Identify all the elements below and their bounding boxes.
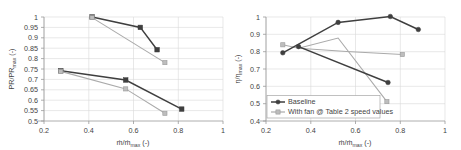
x-tick-label: 1 [221,126,225,135]
y-tick-label: 0.7 [250,65,260,74]
x-tick-label: 0.2 [39,126,49,135]
series-withfan-descending-markers [385,100,389,104]
two-panel-chart-figure: 1 0.95 0.9 0.85 0.8 0.75 0.7 0.65 0.6 0.… [0,0,461,150]
y-tick-label: 0.9 [250,30,260,39]
series-withfan-descending [299,38,387,102]
series-baseline-high-markers [90,15,160,52]
x-axis-title: ṁ/ṁmax (-) [117,138,150,148]
y-tick-label: 0.7 [28,75,38,84]
y-tick-label: 0.9 [28,33,38,42]
pressure-ratio-svg: 1 0.95 0.9 0.85 0.8 0.75 0.7 0.65 0.6 0.… [0,0,230,150]
y-axis-title: PR/PRmax (-) [7,49,17,90]
legend-label-with-fan: With fan @ Table 2 speed values [288,107,393,116]
y-tick-label: 0.5 [250,99,260,108]
y-tick-label: 1 [34,13,38,22]
x-tick-label: 0.8 [173,126,183,135]
x-tick-label: 0.4 [306,126,316,135]
x-tick-label: 1 [443,126,447,135]
x-axis-title: ṁ/ṁmax (-) [339,138,372,148]
x-tick-label: 0.6 [129,126,139,135]
legend-marker-with-fan [276,110,280,114]
y-tick-label: 0.6 [250,82,260,91]
y-axis-title: η/ηmax (-) [233,55,243,84]
y-tick-label: 0.8 [250,47,260,56]
pressure-ratio-panel: 1 0.95 0.9 0.85 0.8 0.75 0.7 0.65 0.6 0.… [0,0,230,150]
y-tickmarks [41,17,44,121]
x-tick-label: 0.4 [84,126,94,135]
x-tickmarks [44,121,223,124]
y-tick-label: 1 [256,13,260,22]
y-tickmarks [263,17,266,121]
y-tick-label: 0.5 [28,117,38,126]
y-tick-label: 0.4 [250,117,260,126]
y-tick-label: 0.8 [28,54,38,63]
x-tickmarks [266,121,445,124]
y-tick-label: 0.6 [28,96,38,105]
legend-marker-baseline [276,100,280,104]
legend-label-baseline: Baseline [288,97,316,106]
x-tick-label: 0.8 [395,126,405,135]
x-tick-label: 0.6 [351,126,361,135]
y-tick-label: 0.65 [24,85,38,94]
efficiency-panel: 1 0.9 0.8 0.7 0.6 0.5 0.4 0.2 0.4 0.6 0.… [230,0,461,150]
efficiency-svg: 1 0.9 0.8 0.7 0.6 0.5 0.4 0.2 0.4 0.6 0.… [230,0,461,150]
series-baseline-high [92,17,157,50]
legend: Baseline With fan @ Table 2 speed values [267,96,393,119]
legend-entry-with-fan[interactable]: With fan @ Table 2 speed values [271,107,393,116]
y-tick-label: 0.75 [24,65,38,74]
y-tick-label: 0.85 [24,44,38,53]
y-tick-label: 0.95 [24,23,38,32]
y-tick-label: 0.55 [24,106,38,115]
x-tick-label: 0.2 [261,126,271,135]
